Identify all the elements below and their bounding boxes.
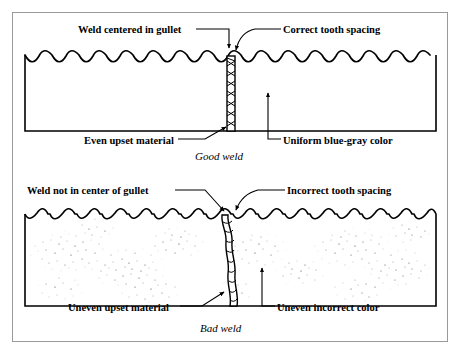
- good-leader-tooth-spacing: [236, 29, 281, 50]
- label-bad-tooth-spacing: Incorrect tooth spacing: [287, 186, 391, 197]
- bad-weld-panel: [25, 190, 436, 306]
- label-good-tooth-spacing: Correct tooth spacing: [283, 25, 380, 36]
- good-leader-upset: [178, 127, 226, 139]
- good-weld-panel: [25, 29, 436, 139]
- good-leader-color: [268, 93, 281, 139]
- good-leader-weld-centered: [196, 29, 229, 48]
- label-bad-uneven-upset-material: Uneven upset material: [68, 303, 169, 314]
- label-bad-weld-not-centered: Weld not in center of gullet: [27, 186, 148, 197]
- label-good-even-upset-material: Even upset material: [84, 136, 174, 147]
- bad-leader-tooth-spacing: [236, 190, 285, 210]
- label-bad-uneven-color: Uneven incorrect color: [277, 303, 379, 314]
- bad-leader-weld-center: [175, 190, 224, 211]
- label-good-weld-centered: Weld centered in gullet: [78, 25, 181, 36]
- weld-comparison-figure: Weld centered in gullet Correct tooth sp…: [0, 0, 461, 355]
- caption-good-weld: Good weld: [195, 150, 243, 162]
- label-good-uniform-color: Uniform blue-gray color: [283, 136, 393, 147]
- caption-bad-weld: Bad weld: [200, 322, 241, 334]
- good-weld-seam: [227, 56, 235, 131]
